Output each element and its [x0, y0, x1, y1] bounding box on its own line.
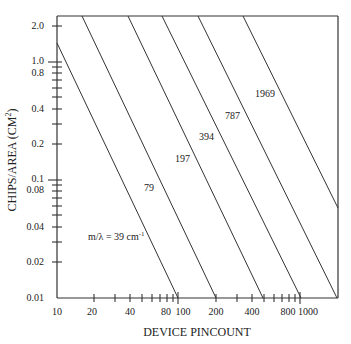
series-label-79: 79 [144, 182, 154, 193]
y-tick-0.2: 0.2 [32, 138, 45, 149]
y-axis-title: CHIPS/AREA (CM2) [4, 108, 19, 211]
series-labels: 79 197 394 787 1969 [144, 88, 275, 193]
y-tick-0.02: 0.02 [27, 256, 45, 267]
y-tick-0.1: 0.1 [32, 173, 45, 184]
y-tick-0.8: 0.8 [32, 67, 45, 78]
x-tick-800: 800 [281, 306, 296, 317]
series-line-unlabeled [243, 16, 338, 208]
x-tick-10: 10 [52, 306, 62, 317]
y-tick-0.04: 0.04 [27, 221, 45, 232]
x-tick-labels: 10 20 40 80 100 200 400 800 1000 [52, 306, 318, 317]
x-tick-100: 100 [176, 306, 191, 317]
x-tick-400: 400 [245, 306, 260, 317]
y-tick-0.08: 0.08 [27, 184, 45, 195]
series-line-79 [57, 43, 178, 298]
series-label-787: 787 [225, 110, 240, 121]
series-lines [57, 16, 338, 298]
y-axis-ticks [48, 26, 62, 262]
series-label-1969: 1969 [255, 88, 275, 99]
chart: 2.0 1.0 0.8 0.4 0.2 0.1 0.08 0.04 0.02 0… [0, 0, 351, 344]
x-tick-200: 200 [209, 306, 224, 317]
y-tick-1.0: 1.0 [32, 55, 45, 66]
x-tick-20: 20 [87, 306, 97, 317]
x-tick-80: 80 [161, 306, 171, 317]
series-label-197: 197 [175, 153, 190, 164]
x-axis-title: DEVICE PINCOUNT [143, 325, 251, 339]
x-tick-1000: 1000 [298, 306, 318, 317]
series-line-1969 [198, 16, 337, 298]
y-tick-2.0: 2.0 [32, 20, 45, 31]
y-tick-0.01: 0.01 [27, 292, 45, 303]
y-tick-labels: 2.0 1.0 0.8 0.4 0.2 0.1 0.08 0.04 0.02 0… [27, 20, 45, 303]
plot-frame [57, 16, 338, 298]
x-tick-40: 40 [125, 306, 135, 317]
series-label-394: 394 [199, 131, 214, 142]
annotation-m-lambda: m/λ = 39 cm-1 [88, 230, 145, 242]
y-tick-0.4: 0.4 [32, 103, 45, 114]
